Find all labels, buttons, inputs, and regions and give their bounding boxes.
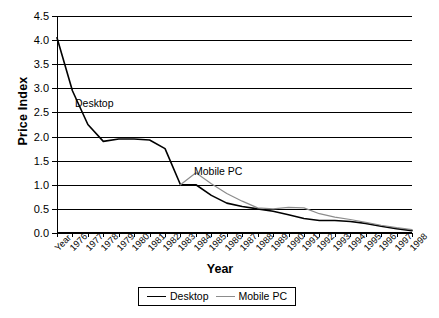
y-axis-tick-label: 0.0	[34, 228, 49, 239]
x-axis-tick	[196, 233, 197, 237]
x-axis-tick	[304, 233, 305, 237]
x-axis-tick	[88, 233, 89, 237]
legend-item-desktop: Desktop	[147, 290, 209, 302]
x-axis-tick	[273, 233, 274, 237]
x-axis-tick	[227, 233, 228, 237]
y-axis-tick-label: 4.5	[34, 11, 49, 22]
x-axis-tick	[57, 233, 58, 237]
legend-label-desktop: Desktop	[170, 290, 209, 302]
series-line-desktop	[57, 38, 412, 231]
x-axis-tick	[258, 233, 259, 237]
y-axis-tick-label: 0.5	[34, 203, 49, 214]
series-line-mobile-pc	[180, 173, 412, 230]
annotation-mobile-pc: Mobile PC	[194, 165, 242, 177]
series-lines	[57, 16, 412, 233]
x-axis-tick	[381, 233, 382, 237]
x-axis-tick	[134, 233, 135, 237]
x-axis-title: Year	[175, 262, 265, 276]
x-axis-tick	[242, 233, 243, 237]
x-axis-tick	[319, 233, 320, 237]
x-axis-tick	[119, 233, 120, 237]
y-axis-tick-label: 4.0	[34, 35, 49, 46]
y-axis-tick-label: 1.5	[34, 155, 49, 166]
x-axis-tick	[412, 233, 413, 237]
x-axis-tick	[289, 233, 290, 237]
y-axis-tick-label: 1.0	[34, 179, 49, 190]
x-axis-tick	[211, 233, 212, 237]
x-axis-tick	[350, 233, 351, 237]
x-axis-tick	[103, 233, 104, 237]
chart-legend: Desktop Mobile PC	[138, 287, 296, 306]
y-axis-tick-label: 3.0	[34, 83, 49, 94]
legend-swatch-mobile-pc	[216, 296, 235, 297]
x-axis-tick	[335, 233, 336, 237]
x-axis-tick	[397, 233, 398, 237]
y-axis-tick-label: 3.5	[34, 59, 49, 70]
y-axis-tick-label: 2.0	[34, 131, 49, 142]
legend-label-mobile-pc: Mobile PC	[239, 290, 287, 302]
x-axis-tick	[165, 233, 166, 237]
x-axis-tick	[366, 233, 367, 237]
x-axis-tick	[150, 233, 151, 237]
legend-swatch-desktop	[147, 296, 166, 297]
plot-area: 0.00.51.01.52.02.53.03.54.04.5 Year19761…	[57, 16, 412, 233]
price-index-line-chart: Price Index Year 0.00.51.01.52.02.53.03.…	[0, 0, 439, 318]
y-axis-title: Price Index	[16, 51, 30, 171]
annotation-desktop: Desktop	[75, 97, 114, 109]
y-axis-tick-label: 2.5	[34, 107, 49, 118]
x-axis-tick	[180, 233, 181, 237]
legend-item-mobile-pc: Mobile PC	[216, 290, 287, 302]
x-axis-tick	[72, 233, 73, 237]
